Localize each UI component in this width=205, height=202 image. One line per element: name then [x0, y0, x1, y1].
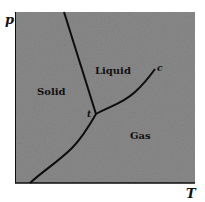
region-label-liquid: Liquid [95, 65, 131, 76]
region-label-gas: Gas [130, 130, 151, 141]
region-label-solid: Solid [37, 86, 65, 97]
x-axis-label: T [186, 186, 197, 201]
plot-area [15, 12, 195, 183]
critical-point-label: c [157, 63, 163, 73]
y-axis-label: p [5, 12, 14, 27]
phase-diagram: p T Liquid Solid Gas t c [0, 0, 205, 202]
